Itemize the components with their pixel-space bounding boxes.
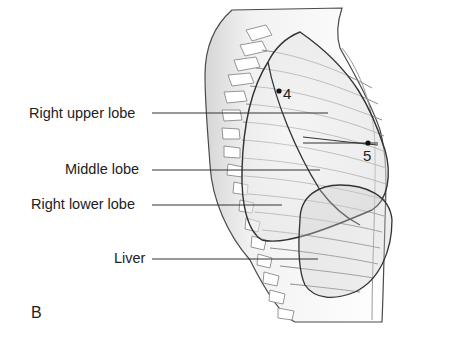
label-right-upper-lobe: Right upper lobe [29,106,135,121]
marker-label-5: 5 [363,148,371,163]
label-middle-lobe: Middle lobe [65,162,139,177]
marker-dot-5 [365,140,370,145]
label-liver: Liver [114,251,145,266]
marker-label-4: 4 [283,86,291,101]
label-right-lower-lobe: Right lower lobe [31,197,135,212]
panel-letter: B [31,305,42,321]
marker-dot-4 [276,88,281,93]
thorax-diagram: Right upper lobe Middle lobe Right lower… [0,0,449,345]
